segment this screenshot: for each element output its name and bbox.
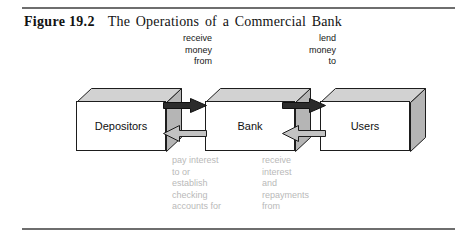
box-front-face: [320, 101, 410, 151]
bottom-divider-rule: [22, 228, 455, 230]
node-depositors: Depositors: [76, 88, 168, 138]
box-front-face: [76, 101, 166, 151]
flow-label-pay-interest-to-or-establish-checking-accounts-for: pay interest to or establish checking ac…: [172, 155, 260, 213]
figure-title: The Operations of a Commercial Bank: [108, 14, 342, 29]
figure-number: Figure 19.2: [24, 14, 95, 29]
arrow-bank-to-users-icon: [282, 98, 326, 114]
box-top-face: [320, 88, 426, 102]
arrow-bank-to-depositors-icon: [163, 125, 207, 143]
node-users: Users: [320, 88, 412, 138]
flow-label-receive-interest-and-repayments-from: receive interest and repayments from: [262, 155, 357, 213]
figure-container: Figure 19.2The Operations of a Commercia…: [0, 0, 471, 243]
top-divider-rule: [22, 7, 455, 9]
figure-caption: Figure 19.2The Operations of a Commercia…: [24, 14, 342, 30]
flow-label-receive-money-from: receive money from: [120, 33, 212, 68]
flow-label-lend-money-to: lend money to: [256, 33, 336, 68]
arrow-depositors-to-bank-icon: [163, 98, 207, 114]
arrow-users-to-bank-icon: [282, 125, 326, 143]
